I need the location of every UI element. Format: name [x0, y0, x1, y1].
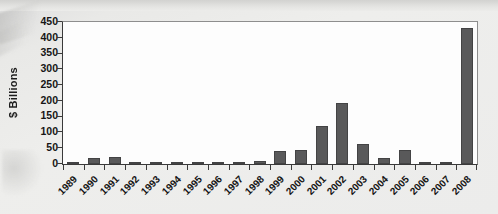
bar-2002 [336, 103, 348, 164]
y-axis-tick: 0 [22, 157, 62, 169]
bar-slot [436, 22, 457, 164]
bar-2001 [316, 126, 328, 164]
bar-slot [187, 22, 208, 164]
bar-slot [456, 22, 477, 164]
bar-slot [167, 22, 188, 164]
bar-slot [104, 22, 125, 164]
bar-chart: $ Billions 050100150200250300350400450 1… [0, 0, 498, 214]
y-axis-tick: 350 [22, 47, 62, 59]
y-axis-tick: 200 [22, 94, 62, 106]
bar-series [63, 22, 477, 164]
scanned-page: $ Billions 050100150200250300350400450 1… [0, 0, 498, 214]
bar-2008 [461, 28, 473, 164]
y-axis-tick: 300 [22, 62, 62, 74]
bar-slot [125, 22, 146, 164]
y-axis-tick: 400 [22, 31, 62, 43]
y-axis-label: $ Billions [4, 38, 22, 148]
bar-slot [229, 22, 250, 164]
x-axis-label-slot: 2008 [456, 170, 477, 214]
y-axis-tick: 250 [22, 78, 62, 90]
y-axis-tick-list: 050100150200250300350400450 [22, 21, 62, 165]
bar-slot [84, 22, 105, 164]
bar-slot [249, 22, 270, 164]
bar-slot [415, 22, 436, 164]
y-axis-tick: 150 [22, 110, 62, 122]
bar-slot [374, 22, 395, 164]
bar-slot [291, 22, 312, 164]
x-axis-tick-label-text: 1989 [56, 173, 80, 197]
bar-slot [353, 22, 374, 164]
bar-slot [332, 22, 353, 164]
y-axis-tick: 450 [22, 15, 62, 27]
bar-slot [208, 22, 229, 164]
bar-slot [394, 22, 415, 164]
y-axis-tick: 50 [22, 141, 62, 153]
y-axis-tick: 100 [22, 125, 62, 137]
bar-slot [63, 22, 84, 164]
bar-slot [270, 22, 291, 164]
bar-slot [146, 22, 167, 164]
bar-slot [311, 22, 332, 164]
x-axis-label-list: 1989199019911992199319941995199619971998… [63, 170, 477, 214]
